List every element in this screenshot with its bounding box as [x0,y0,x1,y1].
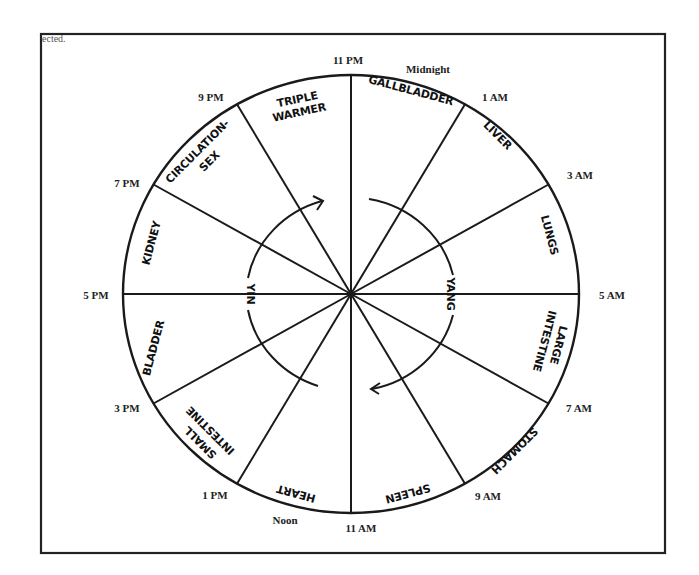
organ-clock-diagram: ected. YIN YANG GALLBLADDER LIVER [0,0,699,575]
time-5pm: 5 PM [83,289,109,301]
organ-gallbladder: GALLBLADDER [367,73,456,108]
organ-clock-figure: ected. YIN YANG GALLBLADDER LIVER [0,0,699,575]
organ-kidney: KIDNEY [139,218,164,266]
organ-stomach: STOMACH [489,425,541,477]
time-midnight: Midnight [406,63,450,75]
yin-arc-upper [248,201,322,278]
time-9am: 9 AM [475,490,502,502]
spoke-3pm [154,294,352,404]
time-7pm: 7 PM [114,177,140,189]
spoke-1pm [237,294,351,484]
yang-cycle: YANG [369,199,457,394]
organ-bladder: BLADDER [140,318,167,377]
clipped-caption-fragment: ected. [42,33,66,44]
yin-cycle: YIN [244,196,323,386]
time-7am: 7 AM [566,402,593,414]
spoke-1am [351,104,465,294]
time-3am: 3 AM [567,169,594,181]
yang-label: YANG [444,276,457,311]
time-noon: Noon [272,514,297,526]
time-9pm: 9 PM [198,91,224,103]
time-1am: 1 AM [482,91,509,103]
organ-lungs: LUNGS [538,214,561,257]
yin-arc-lower [248,310,318,386]
yang-arc-upper [369,199,453,275]
yang-arc-lower [372,315,453,389]
spoke-9pm [237,104,351,294]
time-11pm: 11 PM [333,54,364,66]
time-1pm: 1 PM [202,489,228,501]
time-11am: 11 AM [346,522,377,534]
time-5am: 5 AM [599,289,626,301]
organ-circulation-sex-line1: CIRCULATION- [163,117,232,186]
yin-label: YIN [244,282,257,304]
spoke-9am [351,294,465,484]
time-3pm: 3 PM [114,402,140,414]
